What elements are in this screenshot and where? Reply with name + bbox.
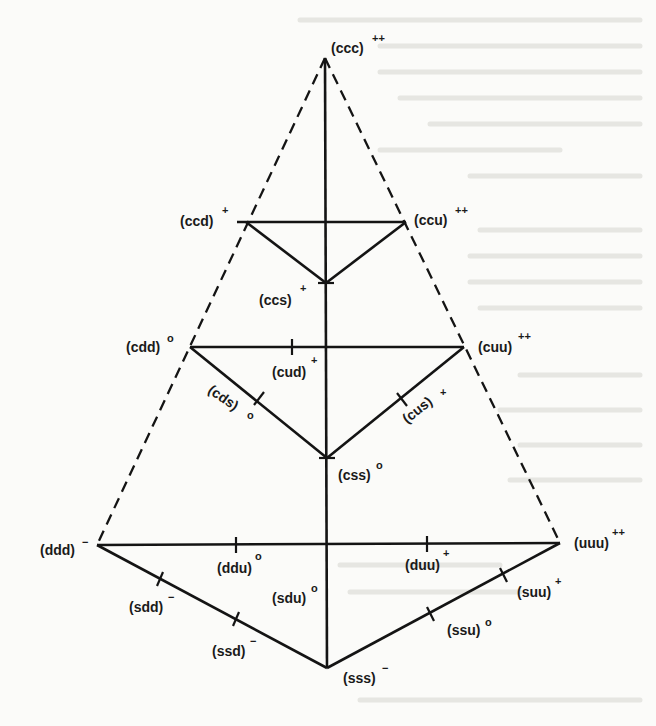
edge-ccu-ccs	[326, 222, 406, 283]
svg-text:o: o	[247, 409, 254, 421]
svg-text:+: +	[555, 575, 561, 587]
svg-text:o: o	[255, 550, 262, 562]
svg-text:+: +	[300, 282, 306, 294]
label-cud: (cud) +	[272, 354, 317, 380]
svg-text:+: +	[440, 386, 446, 398]
svg-text:(cus): (cus)	[399, 393, 435, 426]
svg-text:−: −	[250, 635, 256, 647]
label-sss: (sss) −	[343, 662, 388, 686]
svg-text:(ddu): (ddu)	[217, 560, 252, 576]
label-cdd: (cdd) o	[126, 332, 174, 355]
svg-text:(ccu): (ccu)	[414, 212, 447, 228]
svg-text:(cdd): (cdd)	[126, 339, 160, 355]
label-ccc: (ccc) ++	[331, 32, 385, 56]
svg-text:(cuu): (cuu)	[478, 339, 512, 355]
svg-text:(duu): (duu)	[405, 557, 440, 573]
svg-text:++: ++	[455, 204, 468, 216]
edge-ccc-sss	[325, 58, 327, 668]
svg-text:(ccd): (ccd)	[180, 213, 213, 229]
svg-text:−: −	[382, 662, 388, 674]
svg-text:−: −	[82, 536, 88, 548]
label-ccd: (ccd) +	[180, 204, 228, 229]
label-uuu: (uuu) ++	[574, 526, 625, 551]
label-ssu: (ssu) o	[447, 616, 492, 638]
svg-text:(sss): (sss)	[343, 670, 376, 686]
svg-text:(cud): (cud)	[272, 364, 306, 380]
label-cds: (cds) o	[205, 381, 254, 421]
label-sdd: (sdd) −	[129, 591, 174, 615]
svg-text:o: o	[167, 332, 174, 344]
svg-text:o: o	[485, 616, 492, 628]
baryon-multiplet-diagram: (ccc) ++ (ccd) + (ccu) ++ (ccs) + (cdd) …	[0, 0, 656, 726]
svg-text:++: ++	[612, 526, 625, 538]
label-ccs: (ccs) +	[259, 282, 306, 308]
svg-text:o: o	[311, 582, 318, 594]
label-css: (css) o	[338, 459, 383, 483]
svg-text:(ccc): (ccc)	[331, 40, 364, 56]
svg-text:++: ++	[372, 32, 385, 44]
edge-cdd-css	[190, 347, 327, 458]
edge-ccd-ccs	[246, 222, 326, 283]
label-cuu: (cuu) ++	[478, 330, 531, 355]
svg-text:++: ++	[518, 330, 531, 342]
label-ddu: (ddu) o	[217, 550, 262, 576]
svg-text:(css): (css)	[338, 467, 371, 483]
label-ssd: (ssd) −	[212, 635, 256, 659]
label-ddd: (ddd) −	[40, 536, 88, 558]
label-ccu: (ccu) ++	[414, 204, 468, 228]
svg-text:+: +	[222, 204, 228, 216]
svg-text:(ssu): (ssu)	[447, 622, 480, 638]
svg-text:(ssd): (ssd)	[212, 643, 245, 659]
svg-text:(sdd): (sdd)	[129, 599, 163, 615]
label-sdu: (sdu) o	[272, 582, 318, 606]
edge-cuu-css	[327, 347, 464, 458]
svg-text:−: −	[168, 591, 174, 603]
svg-text:+: +	[311, 354, 317, 366]
svg-text:o: o	[376, 459, 383, 471]
edge-uuu-sss	[327, 543, 560, 668]
svg-text:(uuu): (uuu)	[574, 535, 609, 551]
svg-text:(ddd): (ddd)	[40, 542, 75, 558]
svg-text:+: +	[443, 547, 449, 559]
label-suu: (suu) +	[517, 575, 561, 600]
bleed-through-text	[300, 20, 640, 700]
svg-text:(sdu): (sdu)	[272, 590, 306, 606]
svg-text:(ccs): (ccs)	[259, 292, 292, 308]
svg-text:(suu): (suu)	[517, 584, 551, 600]
edge-ddd-uuu	[97, 543, 560, 545]
